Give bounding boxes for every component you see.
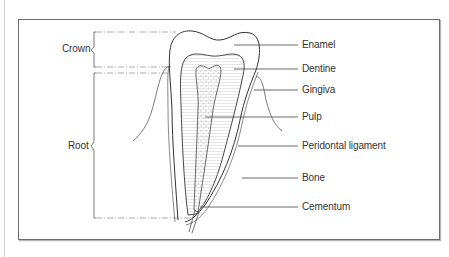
tooth-diagram xyxy=(0,0,449,257)
crown-label: Crown xyxy=(62,43,90,55)
enamel-label: Enamel xyxy=(302,39,335,51)
cementum-label: Cementum xyxy=(302,201,350,213)
root-label: Root xyxy=(68,140,89,152)
gingiva-label: Gingiva xyxy=(302,84,335,96)
bone-label: Bone xyxy=(302,172,325,184)
crown-bracket xyxy=(91,32,96,67)
root-bracket xyxy=(91,73,96,218)
periodontal-ligament-label: Peridontal ligament xyxy=(302,140,386,152)
dentine-label: Dentine xyxy=(302,63,336,75)
pulp-label: Pulp xyxy=(302,111,322,123)
